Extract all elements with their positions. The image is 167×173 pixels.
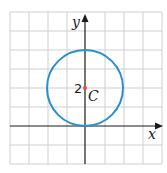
y-axis-label: y: [71, 14, 81, 30]
center-point: [83, 86, 87, 90]
axes: [10, 18, 160, 164]
y-axis-arrow-icon: [82, 14, 89, 22]
center-y-value-label: 2: [74, 81, 82, 96]
center-label: C: [88, 88, 99, 104]
coordinate-diagram: x y 2 C: [0, 0, 167, 173]
x-axis-label: x: [148, 126, 156, 142]
